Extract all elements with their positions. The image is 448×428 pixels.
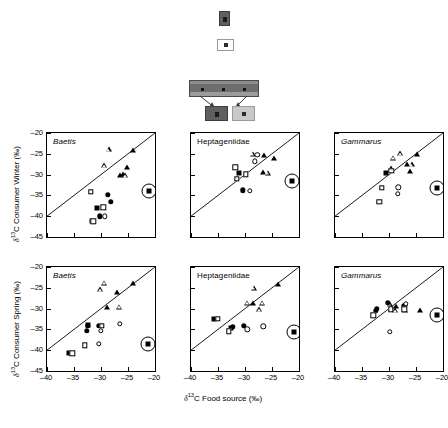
x-tick [155, 233, 156, 237]
marker-open-triangle [265, 170, 271, 175]
y-tick [335, 175, 339, 176]
y-tick-label: –40 [30, 345, 46, 354]
circled-marker [284, 174, 299, 189]
panel-title: Baetis [53, 271, 76, 280]
marker-open-square [82, 343, 87, 348]
marker-open-square [70, 350, 75, 355]
marker-open-square [371, 313, 376, 318]
y-tick [335, 288, 339, 289]
x-tick [128, 233, 129, 237]
y-tick-label: –40 [30, 211, 46, 220]
x-tick [47, 233, 48, 237]
y-tick [47, 175, 51, 176]
x-tick [191, 233, 192, 237]
marker-open-square [388, 168, 393, 173]
y-tick [47, 371, 51, 372]
x-tick [272, 367, 273, 371]
marker-filled-triangle [130, 148, 136, 153]
marker-filled-triangle [124, 165, 130, 170]
toolbar-chip-right[interactable] [232, 106, 255, 121]
x-tick [299, 367, 300, 371]
marker-open-square [100, 205, 105, 210]
marker-open-square [226, 329, 231, 334]
marker-filled-square [237, 170, 242, 175]
x-tick-label: –40 [40, 373, 53, 382]
circled-marker [430, 308, 444, 323]
toolbar-strip[interactable] [189, 80, 259, 97]
panel-title: Heptageniidae [197, 137, 250, 146]
panel-heptageniidae-winter: Heptageniidae [190, 132, 300, 238]
marker-open-triangle [244, 300, 250, 305]
x-tick-label: –20 [436, 373, 448, 382]
marker-filled-triangle [417, 308, 423, 313]
x-tick-label: –25 [409, 373, 422, 382]
x-tick [389, 367, 390, 371]
marker-open-triangle [122, 173, 128, 178]
x-tick-label: –35 [211, 373, 224, 382]
y-tick [335, 350, 339, 351]
x-tick [416, 233, 417, 237]
marker-filled-square [94, 205, 99, 210]
marker-open-triangle [409, 162, 415, 167]
y-tick [47, 267, 51, 268]
x-tick [245, 233, 246, 237]
x-tick-label: –40 [184, 373, 197, 382]
y-tick [191, 175, 195, 176]
marker-open-triangle [256, 307, 262, 312]
y-tick [47, 237, 51, 238]
circled-marker [140, 337, 155, 352]
x-axis-title: δ13C Food source (‰) [184, 394, 262, 403]
y-tick [335, 216, 339, 217]
marker-open-triangle [116, 304, 122, 309]
marker-filled-square [86, 322, 91, 327]
marker-open-triangle [390, 155, 396, 160]
marker-filled-triangle [414, 151, 420, 156]
x-tick-label: –30 [94, 373, 107, 382]
x-tick [101, 233, 102, 237]
x-tick-label: –20 [292, 373, 305, 382]
x-tick [128, 367, 129, 371]
y-tick-label: –35 [30, 190, 46, 199]
marker-open-triangle [397, 151, 403, 156]
one-to-one-line [191, 267, 299, 371]
x-tick [74, 367, 75, 371]
one-to-one-line [335, 133, 443, 237]
marker-filled-triangle [104, 304, 110, 309]
toolbar-dark-chip[interactable] [219, 11, 230, 26]
y-tick [191, 216, 195, 217]
y-tick [335, 309, 339, 310]
y-tick-label: –45 [30, 232, 46, 241]
x-tick-label: –25 [265, 373, 278, 382]
one-to-one-line [47, 133, 155, 237]
marker-filled-triangle [271, 155, 277, 160]
x-tick [335, 367, 336, 371]
y-tick [47, 216, 51, 217]
y-tick [335, 237, 339, 238]
panel-title: Heptageniidae [197, 271, 250, 280]
circled-marker [141, 184, 156, 199]
y-tick [47, 329, 51, 330]
marker-open-square [88, 189, 93, 194]
y-tick [335, 154, 339, 155]
x-tick [47, 367, 48, 371]
marker-open-triangle [106, 147, 112, 152]
x-tick [443, 233, 444, 237]
toolbar-chip-left[interactable] [205, 106, 228, 121]
marker-filled-triangle [275, 282, 281, 287]
toolbar-light-chip[interactable] [217, 39, 234, 51]
marker-filled-triangle [250, 300, 256, 305]
x-tick-label: –40 [328, 373, 341, 382]
x-tick [416, 367, 417, 371]
panel-baetis-spring: Baetis [46, 266, 156, 372]
y-tick [335, 267, 339, 268]
y-tick [335, 329, 339, 330]
y-tick [191, 288, 195, 289]
y-tick [191, 309, 195, 310]
y-tick-label: –25 [30, 282, 46, 291]
x-tick [389, 233, 390, 237]
panel-gammarus-spring: Gammarus [334, 266, 444, 372]
x-tick [191, 367, 192, 371]
y-tick [191, 133, 195, 134]
y-tick-label: –20 [30, 128, 46, 137]
marker-filled-triangle [114, 289, 120, 294]
